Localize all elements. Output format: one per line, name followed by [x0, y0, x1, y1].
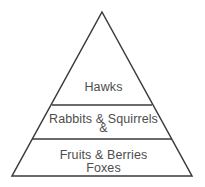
tier-top-line-3: Foxes: [2, 162, 205, 176]
energy-pyramid-diagram: Hawks & Foxes Rabbits & Squirrels Fruits…: [0, 0, 205, 187]
pyramid-tier-bottom-label: Fruits & Berries: [2, 149, 205, 163]
pyramid-tier-middle-label: Rabbits & Squirrels: [2, 113, 205, 127]
tier-top-line-1: Hawks: [2, 81, 205, 95]
